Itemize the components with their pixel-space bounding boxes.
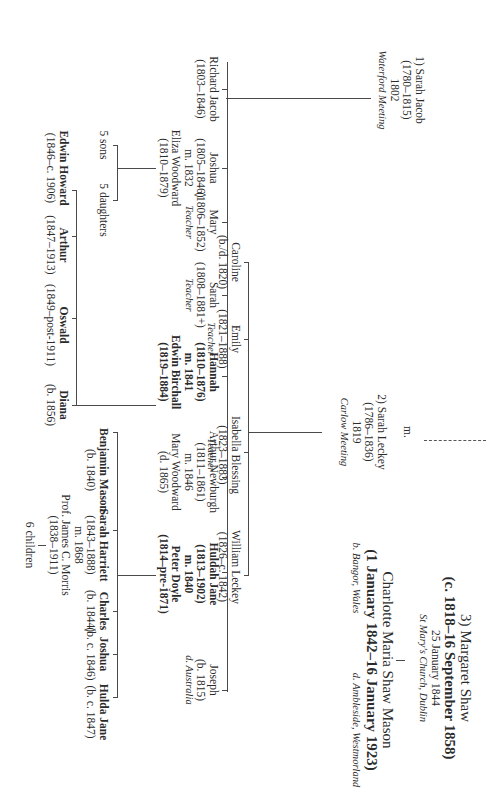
person-hulda-jane: Hulda Jane (b. c. 1847) bbox=[85, 684, 110, 741]
descent-line-joshua bbox=[118, 168, 156, 169]
tick bbox=[113, 200, 118, 201]
person-name: Isabella Blessing bbox=[230, 416, 243, 494]
descent-line-sarah-harriett bbox=[38, 545, 46, 546]
person-dates: (1 January 1842–16 January 1923) bbox=[364, 549, 380, 771]
person-joseph: Joseph (b. 1815) d. Australia bbox=[183, 655, 221, 704]
spouse-name: Prof. James C. Morris bbox=[60, 494, 73, 595]
person-name: Arthur bbox=[58, 215, 71, 274]
children-bar-hannah bbox=[76, 190, 77, 405]
children-count: 6 children bbox=[24, 522, 37, 568]
spouse-dates: (c. 1818–16 September 1858) bbox=[442, 576, 458, 759]
joshua-daughters: 5 daughters bbox=[98, 183, 111, 236]
marriage-year: 1802 bbox=[389, 51, 402, 130]
person-name: Huldah Jane bbox=[208, 534, 221, 614]
person-name: Joseph bbox=[208, 655, 221, 704]
marriage-place: St Mary's Church, Dublin bbox=[417, 576, 430, 759]
person-dates: (1806–1852) bbox=[195, 192, 208, 251]
person-name: William Leckey bbox=[230, 530, 243, 604]
person-dates: (b. 1856) bbox=[45, 384, 58, 426]
person-dates: (1813–1902) bbox=[195, 534, 208, 614]
person-name: Edwin Howard bbox=[58, 130, 71, 205]
person-huldah-jane: Huldah Jane (1813–1902) m. 1840 Peter Do… bbox=[158, 534, 221, 614]
tick bbox=[222, 89, 228, 90]
tick bbox=[113, 145, 118, 146]
family-tree-diagram: 1) Sarah Jacob (1780–1815) 1802 Waterfor… bbox=[0, 0, 486, 807]
spouse-sarah-jacob: 1) Sarah Jacob (1780–1815) 1802 Waterfor… bbox=[376, 51, 426, 130]
spouse-margaret-shaw: 3) Margaret Shaw (c. 1818–16 September 1… bbox=[417, 576, 474, 759]
marriage-date: 25 January 1844 bbox=[430, 576, 443, 759]
descent-line-huldah bbox=[118, 575, 156, 576]
person-dates: (1811–1861) bbox=[195, 431, 208, 513]
person-name: Arthur Newburgh bbox=[208, 431, 221, 513]
spouse-dates: (1838–1911) bbox=[48, 494, 61, 595]
tick bbox=[244, 575, 249, 576]
marriage-marker: m. bbox=[402, 426, 415, 438]
sarah-harriett-children: 6 children bbox=[24, 522, 37, 568]
spouse-dates: (1819–1884) bbox=[158, 335, 171, 409]
person-dates: (1849–post-1911) bbox=[45, 284, 58, 366]
descent-line-jacob bbox=[226, 98, 371, 99]
person-name: Joshua bbox=[98, 627, 111, 680]
tick bbox=[222, 168, 228, 169]
person-sarah: Sarah (1808–1881+) Teacher bbox=[183, 262, 221, 328]
tick bbox=[113, 611, 118, 612]
person-charles: Charles (b. 1844) bbox=[85, 590, 110, 632]
spouse-name: 2) Sarah Leckey bbox=[376, 394, 389, 469]
tick bbox=[72, 405, 77, 406]
marriage-place: Waterford Meeting bbox=[376, 51, 389, 130]
person-name: Hannah bbox=[208, 335, 221, 409]
person-name: Hulda Jane bbox=[98, 684, 111, 741]
person-dates: (1808–1881+) bbox=[195, 262, 208, 328]
deathplace: d. Ambleside, Westmorland bbox=[350, 673, 363, 787]
spouse-dates: (1810–1879) bbox=[158, 130, 171, 206]
descent-line-leckey bbox=[249, 432, 322, 433]
person-dates: (b. c. 1847) bbox=[85, 684, 98, 741]
marriage-year: m. 1841 bbox=[183, 335, 196, 409]
tick bbox=[244, 452, 249, 453]
person-dates: (1846–c. 1906) bbox=[45, 130, 58, 205]
spouse-dates: (1814–pre-1871) bbox=[158, 534, 171, 614]
person-diana: Diana (b. 1856) bbox=[45, 384, 70, 426]
person-sarah-harriett: Sarah Harriett (1843–1888) m. 1868 Prof.… bbox=[48, 494, 111, 595]
tick bbox=[222, 690, 228, 691]
person-william-leckey: William Leckey (1826–c. 1842) bbox=[217, 530, 242, 604]
tick bbox=[244, 339, 249, 340]
spouse-name: Peter Doyle bbox=[170, 534, 183, 614]
marriage-label: m. bbox=[402, 426, 415, 438]
tick bbox=[72, 318, 77, 319]
children-bar-huldah bbox=[117, 432, 118, 697]
connector bbox=[77, 405, 86, 406]
person-dates: (b. 1844) bbox=[85, 590, 98, 632]
person-name: Richard Jacob bbox=[208, 56, 221, 121]
person-dates: (1803–1846) bbox=[195, 56, 208, 121]
marriage-year: 1819 bbox=[351, 394, 364, 469]
tick bbox=[113, 530, 118, 531]
marriage-place: Carlow Meeting bbox=[338, 394, 351, 469]
spouse-dates: (1786–1836) bbox=[363, 394, 376, 469]
born-label: b. Bangor, Wales bbox=[350, 543, 363, 614]
tick bbox=[222, 295, 228, 296]
spouse-name: Mary Woodward bbox=[170, 431, 183, 513]
birthplace: b. Bangor, Wales bbox=[350, 543, 363, 614]
person-richard-jacob: Richard Jacob (1803–1846) bbox=[195, 56, 220, 121]
person-name: Sarah bbox=[208, 262, 221, 328]
person-dates: (b. 1815) bbox=[195, 655, 208, 704]
descent-line-hannah bbox=[86, 405, 156, 406]
descent-line-shaw bbox=[396, 660, 405, 661]
spouse-name: Edwin Birchall bbox=[170, 335, 183, 409]
person-name: Charles bbox=[98, 590, 111, 632]
person-oswald: Oswald (1849–post-1911) bbox=[45, 284, 70, 366]
spouse-name: 3) Margaret Shaw bbox=[458, 576, 474, 759]
daughters-count: 5 daughters bbox=[98, 183, 111, 236]
person-dates: (b. c. 1846) bbox=[85, 627, 98, 680]
person-caroline: Caroline (b./d. 1820) bbox=[217, 235, 242, 289]
marriage-year: m. 1846 bbox=[183, 431, 196, 513]
occupation: Teacher bbox=[183, 192, 196, 251]
dashed-descent-line bbox=[424, 440, 486, 441]
person-mary: Mary (1806–1852) Teacher bbox=[183, 192, 221, 251]
person-dates: (1847–1913) bbox=[45, 215, 58, 274]
occupation: Teacher bbox=[183, 262, 196, 328]
person-name: Sarah Harriett bbox=[98, 494, 111, 595]
person-name: Oswald bbox=[58, 284, 71, 366]
person-joshua-doyle: Joshua (b. c. 1846) bbox=[85, 627, 110, 680]
